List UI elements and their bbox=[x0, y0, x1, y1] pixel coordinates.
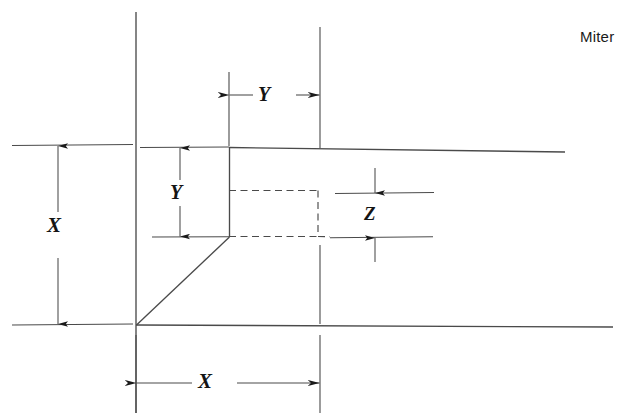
dimension-z bbox=[330, 168, 434, 262]
dimension-y-vertical bbox=[140, 147, 229, 237]
baseline bbox=[136, 325, 613, 327]
z-extension-bottom bbox=[330, 237, 433, 238]
y-vertical-extension-top bbox=[140, 147, 229, 148]
top-profile-line bbox=[229, 148, 565, 153]
diagram-canvas: X X Y Y Z Miter bbox=[0, 0, 626, 413]
hidden-detail-rectangle bbox=[229, 191, 318, 237]
z-extension-top bbox=[335, 193, 434, 194]
x-left-extension-top bbox=[12, 145, 133, 146]
dimension-label-y-horizontal: Y bbox=[258, 84, 270, 104]
dimension-label-x-left: X bbox=[47, 215, 61, 236]
dimension-label-z: Z bbox=[364, 204, 376, 223]
figure-caption: Miter bbox=[580, 28, 614, 45]
miter-dimension-drawing bbox=[0, 0, 626, 413]
dimension-label-y-vertical: Y bbox=[170, 182, 182, 202]
x-left-extension-bottom bbox=[12, 324, 133, 325]
miter-diagonal-line bbox=[137, 237, 230, 325]
dimension-label-x-bottom: X bbox=[198, 371, 212, 392]
dimension-x-left bbox=[12, 145, 133, 326]
dimension-x-bottom bbox=[136, 335, 320, 413]
dimension-y-horizontal bbox=[229, 27, 320, 148]
